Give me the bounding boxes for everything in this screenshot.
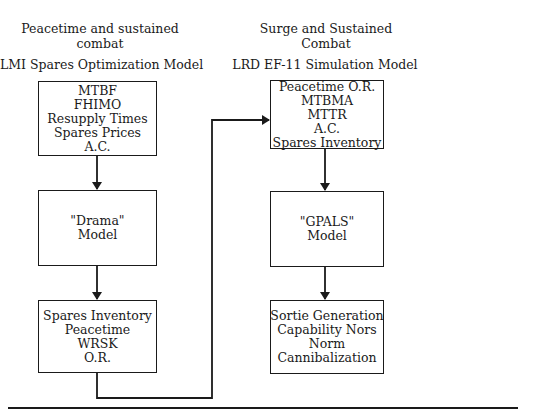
box-line: A.C.: [314, 122, 340, 136]
box-line: Norm: [309, 337, 345, 351]
spares-inventory-output-box: Spares Inventory Peacetime WRSK O.R.: [38, 300, 157, 373]
simulation-inputs-box: Peacetime O.R. MTBMA MTTR A.C. Spares In…: [270, 80, 384, 149]
lmi-inputs-box: MTBF FHIMO Resupply Times Spares Prices …: [38, 81, 157, 156]
box-line: FHIMO: [74, 98, 122, 112]
box-line: Sortie Generation: [270, 309, 383, 323]
box-line: "Drama": [70, 214, 124, 228]
box-line: Spares Prices: [54, 126, 141, 140]
box-line: MTBMA: [301, 94, 353, 108]
sortie-generation-output-box: Sortie Generation Capability Nors Norm C…: [270, 300, 384, 374]
box-line: O.R.: [84, 351, 111, 365]
box-line: Capability Nors: [277, 323, 376, 337]
box-line: MTTR: [307, 108, 346, 122]
box-line: Cannibalization: [277, 351, 376, 365]
box-line: Model: [307, 229, 347, 243]
box-line: Spares Inventory: [43, 309, 152, 323]
gpals-model-box: "GPALS" Model: [270, 191, 384, 267]
box-line: Resupply Times: [47, 112, 147, 126]
drama-model-box: "Drama" Model: [38, 190, 157, 266]
box-line: MTBF: [78, 84, 117, 98]
box-line: "GPALS": [300, 215, 355, 229]
box-line: WRSK: [77, 337, 117, 351]
box-line: Spares Inventory: [273, 136, 382, 150]
box-line: Model: [78, 228, 118, 242]
box-line: A.C.: [84, 140, 110, 154]
box-line: Peacetime: [65, 323, 130, 337]
box-line: Peacetime O.R.: [279, 80, 375, 94]
